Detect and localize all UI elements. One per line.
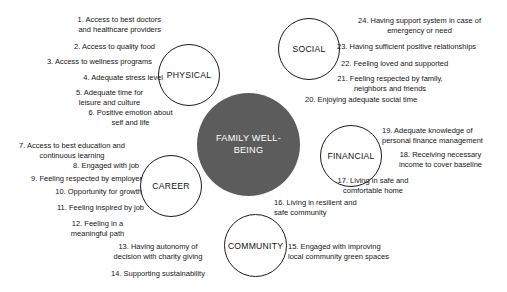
item-8: 8. Engaged with job [9, 161, 139, 171]
item-2: 2. Access to quality food [25, 42, 155, 52]
item-16: 16. Living in resilient and safe communi… [274, 198, 404, 217]
item-19: 19. Adequate knowledge of personal finan… [382, 126, 507, 145]
item-3: 3. Access to wellness programs [2, 57, 152, 67]
category-node-social: SOCIAL [278, 18, 340, 80]
item-5: 5. Adequate time for leisure and culture [57, 88, 162, 107]
item-18: 18. Receiving necessary income to cover … [383, 150, 498, 169]
item-1: 1. Access to best doctors and healthcare… [31, 15, 161, 34]
item-12: 12. Feeling in a meaningful path [55, 219, 140, 238]
item-10: 10. Opportunity for growth [12, 187, 142, 197]
item-15: 15. Engaged with improving local communi… [288, 242, 428, 261]
diagram-canvas: FAMILY WELL-BEING PHYSICAL SOCIAL FINANC… [0, 0, 507, 292]
item-13: 13. Having autonomy of decision with cha… [93, 242, 223, 261]
category-label-social: SOCIAL [292, 44, 325, 54]
category-label-physical: PHYSICAL [167, 70, 212, 80]
item-17: 17. Living in safe and comfortable home [318, 176, 428, 195]
item-4: 4. Adequate stress level [23, 73, 163, 83]
item-21: 21. Feeling respected by family, neighbo… [325, 74, 455, 93]
item-20: 20. Enjoying adequate social time [305, 95, 455, 105]
item-11: 11. Feeling inspired by job [14, 203, 144, 213]
category-node-physical: PHYSICAL [158, 44, 220, 106]
category-node-community: COMMUNITY [224, 214, 287, 277]
category-label-financial: FINANCIAL [327, 151, 374, 161]
item-14: 14. Supporting sustainability [93, 269, 223, 279]
item-24: 24. Having support system in case of eme… [337, 16, 502, 35]
item-23: 23. Having sufficient positive relations… [337, 42, 507, 52]
category-node-career: CAREER [140, 155, 202, 217]
core-node-label: FAMILY WELL-BEING [212, 133, 286, 156]
item-7: 7. Access to best education and continuo… [7, 141, 137, 160]
item-22: 22. Feeling loved and supported [341, 59, 491, 69]
item-6: 6. Positive emotion about self and life [73, 108, 188, 127]
category-label-community: COMMUNITY [228, 241, 283, 251]
category-label-career: CAREER [152, 181, 189, 191]
item-9: 9. Feeling respected by employer [2, 174, 142, 184]
core-node-family-well-being: FAMILY WELL-BEING [197, 93, 300, 196]
